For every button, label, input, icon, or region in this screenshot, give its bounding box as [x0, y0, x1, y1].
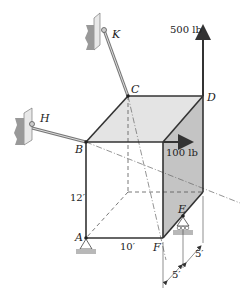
dim-height: 12′ [70, 192, 86, 203]
joint-B [84, 140, 88, 144]
wall-anchor-H [14, 108, 35, 145]
truss-diagram: K H C D B A F E 500 lb 100 lb 12′ 10′ 5′… [0, 0, 250, 296]
label-E: E [177, 203, 186, 216]
wall-anchor-K [85, 13, 107, 50]
label-H: H [39, 112, 50, 125]
label-C: C [131, 83, 140, 96]
label-D: D [206, 91, 216, 104]
force-label-500lb: 500 lb [170, 24, 202, 35]
dim-depth-2: 5′ [172, 269, 181, 280]
label-A: A [74, 231, 83, 244]
cable-BH [32, 128, 86, 142]
label-K: K [111, 28, 121, 41]
label-B: B [74, 143, 83, 156]
dim-depth-1: 5′ [195, 248, 204, 259]
joint-C [126, 94, 130, 98]
label-F: F [152, 241, 161, 254]
dim-width: 10′ [120, 241, 136, 252]
force-label-100lb: 100 lb [166, 147, 198, 158]
